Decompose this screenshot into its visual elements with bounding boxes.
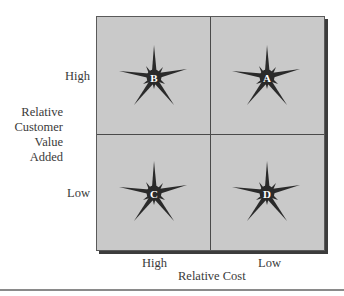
y-axis-label-line-2: Customer [14,120,63,135]
y-tick-high: High [65,69,90,84]
quadrant-letter-a: A [263,72,271,84]
star-icon: B [119,45,189,109]
y-axis-label-line-3: Value [14,135,63,150]
y-tick-low: Low [67,186,90,201]
quadrant-letter-c: C [150,188,158,200]
star-icon: C [119,161,189,225]
quadrant-star-c: C [119,161,189,225]
star-icon: A [232,45,302,109]
horizontal-divider [97,134,324,135]
x-tick-low: Low [258,256,281,271]
x-tick-high: High [142,256,167,271]
y-axis-label-line-4: Added [14,150,63,165]
star-icon: D [232,161,302,225]
y-axis-label: Relative Customer Value Added [14,105,63,165]
quadrant-star-d: D [232,161,302,225]
quadrant-letter-b: B [150,72,158,84]
quadrant-letter-d: D [263,188,271,200]
y-axis-label-line-1: Relative [14,105,63,120]
x-axis-label: Relative Cost [178,269,246,284]
bottom-rule [0,289,344,291]
quadrant-star-b: B [119,45,189,109]
quadrant-star-a: A [232,45,302,109]
